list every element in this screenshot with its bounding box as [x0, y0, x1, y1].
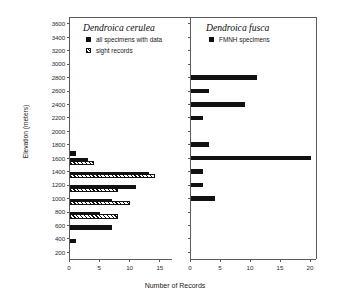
x-tick-label-left: 10: [120, 264, 140, 271]
x-tick-label-left: 0: [59, 264, 79, 271]
y-tick-label: 1800: [30, 141, 65, 148]
x-tick-label-right: 20: [300, 264, 320, 271]
x-tick-label-right: 15: [270, 264, 290, 271]
y-tick: [67, 212, 70, 213]
y-tick: [67, 225, 70, 226]
y-tick-right-panel: [188, 212, 191, 213]
bar-solid: [70, 239, 76, 243]
y-tick-label: 2800: [30, 74, 65, 81]
y-tick-right-panel: [188, 238, 191, 239]
y-tick: [67, 50, 70, 51]
y-tick: [67, 64, 70, 65]
bar-solid: [191, 116, 203, 121]
bar-solid: [191, 89, 209, 94]
y-tick-label: 2600: [30, 87, 65, 94]
y-tick-label: 3000: [30, 60, 65, 67]
legend-swatch-sight-records: [86, 48, 91, 53]
y-tick: [67, 77, 70, 78]
y-tick: [67, 198, 70, 199]
elevation-distribution-figure: Elevation (meters) Number of Records 360…: [0, 0, 343, 304]
bar-solid: [70, 225, 112, 229]
y-tick: [67, 144, 70, 145]
bar-solid: [70, 151, 76, 155]
legend-item-fmnh-specimens: FMNH specimens: [209, 36, 270, 43]
bar-solid: [191, 102, 245, 107]
y-tick-label: 1000: [30, 195, 65, 202]
y-tick-label: 3600: [30, 20, 65, 27]
x-tick-right: [250, 260, 251, 263]
y-tick-right-panel: [188, 23, 191, 24]
y-tick-label: 2000: [30, 128, 65, 135]
y-tick: [67, 117, 70, 118]
y-tick: [67, 238, 70, 239]
right-panel-right-border: [316, 17, 317, 259]
x-tick-right: [190, 260, 191, 263]
bar-hatch: [70, 201, 131, 205]
y-tick-right-panel: [188, 252, 191, 253]
bar-solid: [191, 75, 257, 80]
x-tick-left: [99, 260, 100, 263]
plot-top-border: [69, 17, 316, 18]
bar-hatch: [70, 188, 118, 192]
y-tick: [67, 252, 70, 253]
y-tick: [67, 23, 70, 24]
y-tick-right-panel: [188, 77, 191, 78]
y-tick-right-panel: [188, 171, 191, 172]
y-tick-label: 600: [30, 222, 65, 229]
y-tick-right-panel: [188, 64, 191, 65]
legend-label-fmnh-specimens: FMNH specimens: [219, 36, 270, 43]
y-tick: [67, 171, 70, 172]
y-tick-label: 400: [30, 235, 65, 242]
y-tick-right-panel: [188, 117, 191, 118]
legend-swatch-fmnh-specimens: [209, 37, 214, 42]
y-tick: [67, 131, 70, 132]
y-tick-right-panel: [188, 158, 191, 159]
y-tick-label: 3400: [30, 34, 65, 41]
x-tick-label-left: 5: [89, 264, 109, 271]
right-panel-x-axis: [190, 259, 316, 260]
bar-solid: [191, 142, 209, 147]
y-axis-label: Elevation (meters): [22, 86, 29, 178]
y-tick-right-panel: [188, 91, 191, 92]
y-tick-label: 1200: [30, 181, 65, 188]
x-tick-left: [159, 260, 160, 263]
x-axis-label: Number of Records: [100, 282, 250, 289]
legend-swatch-all-specimens: [86, 37, 91, 42]
right-panel-title: Dendroica fusca: [206, 22, 269, 33]
left-panel-title: Dendroica cerulea: [83, 22, 155, 33]
y-tick-right-panel: [188, 144, 191, 145]
x-tick-label-right: 10: [240, 264, 260, 271]
bar-solid: [191, 156, 311, 161]
bar-solid: [191, 183, 203, 188]
left-panel-x-axis: [69, 259, 172, 260]
y-tick-right-panel: [188, 50, 191, 51]
x-tick-left: [129, 260, 130, 263]
x-tick-left: [69, 260, 70, 263]
y-tick-right-panel: [188, 104, 191, 105]
y-tick-label: 3200: [30, 47, 65, 54]
legend-item-all-specimens: all specimens with data: [86, 36, 162, 43]
x-tick-label-right: 5: [210, 264, 230, 271]
right-panel-y-axis: [190, 17, 191, 259]
bar-solid: [191, 196, 215, 201]
x-tick-label-right: 0: [180, 264, 200, 271]
y-tick: [67, 91, 70, 92]
legend-label-all-specimens: all specimens with data: [96, 36, 162, 43]
left-panel-y-axis: [69, 17, 70, 259]
x-tick-right: [280, 260, 281, 263]
bar-solid: [191, 169, 203, 174]
y-tick-label: 1600: [30, 155, 65, 162]
x-tick-right: [220, 260, 221, 263]
y-tick: [67, 37, 70, 38]
y-tick-label: 1400: [30, 168, 65, 175]
y-tick-label: 2200: [30, 114, 65, 121]
legend-label-sight-records: sight records: [96, 47, 133, 54]
y-tick-label: 800: [30, 208, 65, 215]
x-tick-label-left: 15: [150, 264, 170, 271]
y-tick-label: 2400: [30, 101, 65, 108]
y-tick: [67, 158, 70, 159]
x-tick-right: [310, 260, 311, 263]
y-tick-right-panel: [188, 37, 191, 38]
y-tick-label: 200: [30, 249, 65, 256]
y-tick-right-panel: [188, 225, 191, 226]
